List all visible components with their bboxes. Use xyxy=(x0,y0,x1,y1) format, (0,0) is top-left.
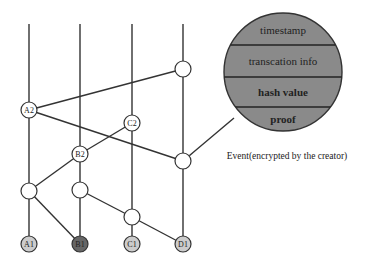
field-timestamp: timestamp xyxy=(260,24,306,36)
event-node-c-mid xyxy=(124,209,140,225)
event-node-d3 xyxy=(175,61,191,77)
node-label-a1: A1 xyxy=(24,240,34,249)
field-hash-value: hash value xyxy=(258,86,308,98)
node-label-c1: C1 xyxy=(127,240,136,249)
node-label-d1: D1 xyxy=(178,240,188,249)
node-label-c2: C2 xyxy=(127,119,136,128)
event-node-d2 xyxy=(175,153,191,169)
node-label-b1: B1 xyxy=(75,240,84,249)
node-label-b2: B2 xyxy=(75,150,84,159)
event-node-b-mid xyxy=(72,182,88,198)
edge-c-d1 xyxy=(132,217,183,244)
edge-b-c xyxy=(80,190,132,217)
hashgraph-diagram: A2 B2 C2 A1 B1 C1 D1 timestamp transcati… xyxy=(0,0,367,270)
edge-a-b1 xyxy=(29,191,80,244)
event-caption: Event(encrypted by the creator) xyxy=(227,151,348,162)
node-label-a2: A2 xyxy=(24,106,34,115)
event-node-a-mid xyxy=(21,183,37,199)
edge-a2-d3 xyxy=(29,69,183,110)
edge-b2-a xyxy=(29,154,80,191)
edge-c2-b2 xyxy=(80,123,132,154)
field-proof: proof xyxy=(270,113,296,125)
event-detail-circle: timestamp transcation info hash value pr… xyxy=(220,13,350,131)
edge-a2-d2 xyxy=(29,110,183,161)
field-transaction-info: transcation info xyxy=(249,55,318,67)
